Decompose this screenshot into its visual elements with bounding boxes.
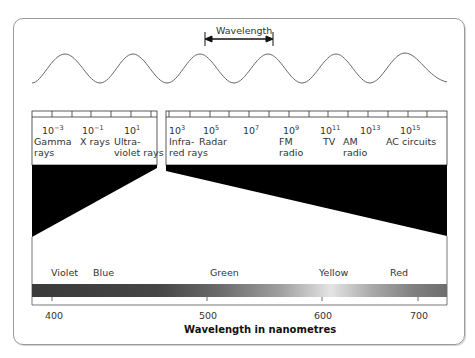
band-exponent-radar: 105 [203,125,219,136]
band-exponent-1e7: 107 [243,125,259,136]
color-label-red: Red [390,267,408,278]
band-label-ac: AC circuits [386,136,436,147]
band-label-fm: FMradio [279,136,303,158]
band-exponent-fm: 109 [283,125,299,136]
wavelength-label: Wavelength [216,25,272,36]
color-label-yellow: Yellow [319,267,348,278]
diagram-graphics [0,0,475,358]
projection-left [32,165,157,237]
tick-label-600: 600 [314,310,332,321]
sine-wave [32,53,447,83]
band-label-tv: TV [323,136,335,147]
band-exponent-gamma: 10−3 [42,125,64,136]
tick-label-700: 700 [410,310,428,321]
band-exponent-xray: 10−1 [82,125,104,136]
band-exponent-infrared: 103 [169,125,185,136]
tick-label-500: 500 [199,310,217,321]
band-exponent-am: 1013 [360,125,380,136]
tick-label-400: 400 [45,310,63,321]
band-exponent-tv: 1011 [320,125,340,136]
band-exponent-uv: 101 [124,125,140,136]
band-label-uv: Ultra-violet rays [114,136,164,158]
color-label-blue: Blue [93,267,114,278]
band-exponent-ac: 1015 [400,125,420,136]
visible-spectrum-gradient [32,284,447,297]
band-label-xray: X rays [80,136,110,147]
axis-title: Wavelength in nanometres [184,324,336,335]
color-label-violet: Violet [51,267,78,278]
band-label-gamma: Gammarays [34,136,72,158]
projection-right [166,165,447,236]
band-label-radar: Radar [199,136,227,147]
color-label-green: Green [210,267,239,278]
band-label-am: AMradio [343,136,367,158]
